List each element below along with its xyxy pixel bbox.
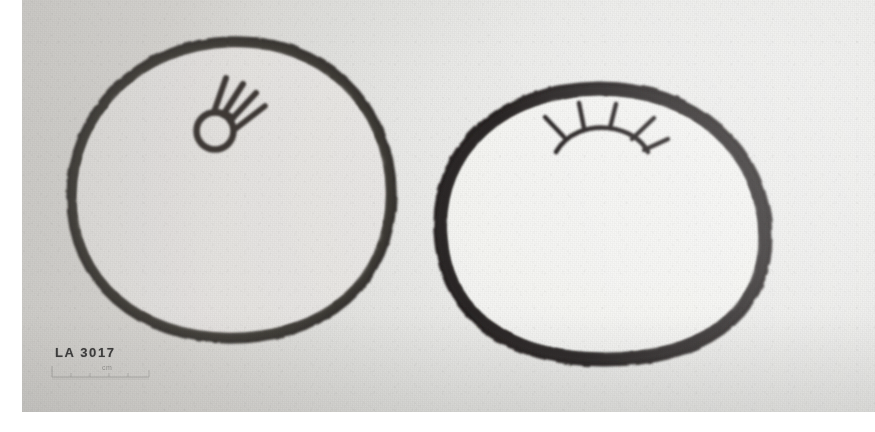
figure-right-circle <box>440 88 766 360</box>
figure-left-circle <box>71 41 392 339</box>
motif-drawings-layer <box>22 0 875 412</box>
archive-photograph-plate: LA 3017 cm <box>0 0 875 432</box>
catalog-number-label: LA 3017 <box>55 345 116 360</box>
scale-bar-caption: cm <box>102 364 113 371</box>
photo-print-area: LA 3017 cm <box>22 0 875 412</box>
